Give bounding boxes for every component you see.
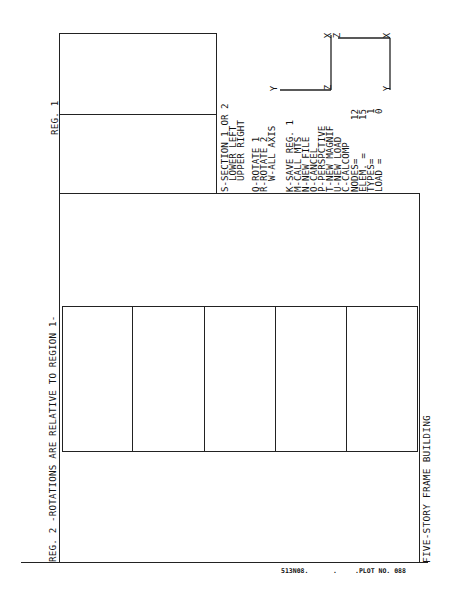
axis-triad-icon [0,0,456,610]
axis-z-label-2: Z [333,33,342,38]
axis-z-label: Z [324,85,333,90]
footer-plot-number: .PLOT NO. 088 [355,567,406,575]
footer-separator: . [333,567,337,575]
footer-job-id: 513N08. [281,567,308,575]
axis-x-label-2: X [383,33,392,38]
axis-y-label-2: Y [383,86,392,91]
axis-y-label: Y [270,86,279,91]
